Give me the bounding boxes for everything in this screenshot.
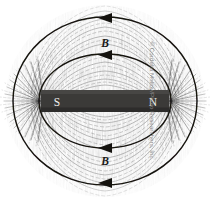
- magnet-highlight: [41, 90, 169, 94]
- field-label-top: B: [100, 37, 109, 49]
- field-label-bottom: B: [100, 155, 109, 167]
- bar-magnet: S N: [41, 90, 169, 112]
- south-pole-label: S: [54, 96, 60, 108]
- magnet-shadow: [41, 108, 169, 113]
- magnetic-field-figure: S N B B © Cordelia Molloy/Photo Research…: [0, 0, 210, 202]
- iron-filings-photograph: S N B B: [0, 0, 210, 202]
- north-pole-label: N: [149, 96, 158, 108]
